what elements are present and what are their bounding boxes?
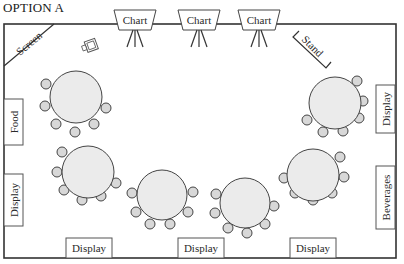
chair — [335, 152, 345, 162]
chart-easel: Chart — [114, 10, 156, 47]
chair — [40, 101, 50, 111]
table-top — [137, 170, 187, 220]
chair — [145, 219, 155, 229]
table-top — [287, 149, 339, 201]
chart-label: Chart — [247, 14, 271, 26]
chair — [70, 127, 80, 137]
round-table — [40, 71, 111, 137]
station-label: Display — [72, 242, 107, 254]
chair — [89, 119, 99, 129]
projector-icon — [80, 38, 98, 53]
station-food-left: Food — [4, 99, 23, 145]
station-label: Display — [8, 182, 20, 217]
chair — [302, 115, 312, 125]
table-top — [62, 146, 114, 198]
stand: Stand — [293, 31, 331, 68]
round-table — [302, 76, 368, 137]
chart-easel: Chart — [178, 10, 220, 47]
chair — [210, 208, 220, 218]
chair — [41, 79, 51, 89]
chair — [183, 207, 193, 217]
chart-easel: Chart — [238, 10, 280, 47]
table-top — [50, 71, 102, 123]
round-table — [127, 170, 198, 229]
chart-label: Chart — [187, 14, 211, 26]
floor-plan: Screen Stand ChartChartChart FoodDisplay… — [0, 0, 404, 264]
station-beverages-right: Beverages — [376, 166, 395, 229]
station-label: Display — [184, 242, 219, 254]
station-label: Display — [380, 91, 392, 126]
chair — [242, 228, 252, 238]
station-display-bottom: Display — [178, 238, 224, 258]
station-label: Display — [296, 242, 331, 254]
chair — [318, 127, 328, 137]
room-walls — [4, 24, 396, 258]
chair — [269, 201, 279, 211]
round-table — [52, 146, 121, 205]
chair — [131, 207, 141, 217]
chair — [51, 119, 61, 129]
chair — [165, 219, 175, 229]
station-display-left: Display — [4, 174, 23, 226]
chair — [127, 188, 137, 198]
chair — [211, 189, 221, 199]
chart-label: Chart — [123, 14, 147, 26]
station-display-right: Display — [376, 85, 395, 133]
station-label: Food — [8, 110, 20, 133]
chair — [101, 103, 111, 113]
round-table — [210, 178, 279, 238]
chair — [57, 147, 67, 157]
station-display-bottom: Display — [66, 238, 112, 258]
chair — [52, 167, 62, 177]
chair — [339, 172, 349, 182]
station-label: Beverages — [380, 175, 392, 221]
table-top — [220, 178, 270, 228]
screen: Screen — [4, 24, 54, 66]
chair — [188, 187, 198, 197]
table-top — [309, 77, 361, 129]
screen-label: Screen — [14, 29, 45, 58]
round-table — [279, 149, 349, 205]
station-display-bottom: Display — [290, 238, 336, 258]
